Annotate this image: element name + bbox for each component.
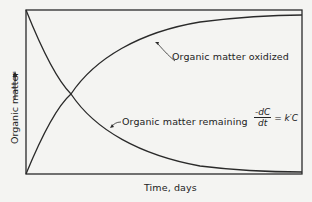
label-oxidized: Organic matter oxidized xyxy=(172,51,289,62)
curve-remaining xyxy=(26,10,302,172)
curve-oxidized xyxy=(26,15,302,174)
diagram-canvas xyxy=(0,0,312,202)
plot-frame xyxy=(26,10,302,174)
equation-fraction: -dC dt xyxy=(254,107,271,128)
equation-denominator: dt xyxy=(254,118,271,128)
rate-equation: -dC dt = k′C xyxy=(254,107,298,128)
y-axis-label: Organic matter xyxy=(9,72,20,144)
label-remaining: Organic matter remaining xyxy=(122,116,248,127)
x-axis-label: Time, days xyxy=(144,182,197,193)
equation-rhs: = k′C xyxy=(274,113,298,123)
equation-numerator: -dC xyxy=(254,107,271,118)
